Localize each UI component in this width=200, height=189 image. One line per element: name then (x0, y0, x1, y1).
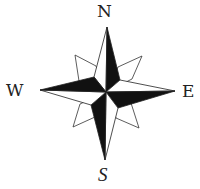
compass-rose (0, 0, 200, 189)
south-label: S (98, 165, 108, 184)
west-point-dark (40, 77, 106, 92)
west-label: W (6, 82, 23, 99)
cardinal-points (40, 27, 175, 160)
east-label: E (182, 83, 194, 100)
north-label: N (97, 3, 112, 20)
